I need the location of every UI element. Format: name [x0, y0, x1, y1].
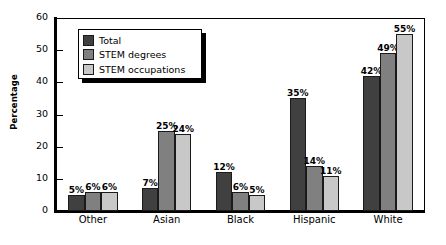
y-axis-tick-label: 30 — [0, 108, 48, 119]
bar-value-label: 6% — [102, 182, 117, 192]
y-axis-tick: 0 — [0, 211, 64, 212]
x-axis-category-label: Asian — [130, 214, 204, 225]
chart-legend: TotalSTEM degreesSTEM occupations — [78, 29, 202, 79]
bar-group: 42%49%55%White — [351, 18, 425, 211]
y-axis-tick-label: 40 — [0, 75, 48, 86]
bar: 35% — [290, 98, 307, 211]
bar: 5% — [249, 195, 266, 211]
bar-value-label: 35% — [287, 88, 309, 98]
legend-label: STEM occupations — [99, 64, 185, 75]
bar: 6% — [232, 192, 249, 211]
bar-value-label: 14% — [304, 156, 326, 166]
x-axis-category-label: Other — [56, 214, 130, 225]
legend-item: STEM degrees — [83, 48, 197, 63]
y-axis-tick: 20 — [0, 147, 64, 148]
bar: 5% — [68, 195, 85, 211]
y-axis-tick: 40 — [0, 82, 64, 83]
bar-group: 35%14%11%Hispanic — [277, 18, 351, 211]
bar-value-label: 6% — [233, 182, 248, 192]
bar: 42% — [363, 76, 380, 211]
y-axis-tick-label: 20 — [0, 140, 48, 151]
y-axis-tick: 10 — [0, 179, 64, 180]
legend-swatch-icon — [83, 49, 94, 60]
y-axis-tick-label: 50 — [0, 43, 48, 54]
legend-label: Total — [99, 35, 121, 46]
bar: 7% — [142, 188, 159, 211]
legend-item: Total — [83, 33, 197, 48]
bar-value-label: 6% — [85, 182, 100, 192]
bar-value-label: 24% — [172, 124, 194, 134]
legend-label: STEM degrees — [99, 49, 166, 60]
x-axis-category-label: White — [351, 214, 425, 225]
bar-value-label: 55% — [394, 24, 416, 34]
legend-item: STEM occupations — [83, 62, 197, 77]
x-axis-category-label: Hispanic — [277, 214, 351, 225]
x-axis-category-label: Black — [204, 214, 278, 225]
bar: 24% — [175, 134, 192, 211]
bar-value-label: 5% — [249, 185, 264, 195]
y-axis-tick: 30 — [0, 115, 64, 116]
bar: 25% — [158, 131, 175, 211]
legend-swatch-icon — [83, 35, 94, 46]
y-axis-tick-label: 0 — [0, 204, 48, 215]
bar: 6% — [101, 192, 118, 211]
bar-value-label: 7% — [143, 178, 158, 188]
y-axis-tick: 50 — [0, 50, 64, 51]
y-axis-tick: 60 — [0, 18, 64, 19]
bar-value-label: 5% — [69, 185, 84, 195]
bar-value-label: 11% — [320, 166, 342, 176]
y-axis-title: Percentage — [9, 57, 19, 147]
bar: 49% — [380, 53, 397, 211]
y-axis-tick-label: 60 — [0, 11, 48, 22]
bar-chart: Percentage 0102030405060 5%6%6%Other7%25… — [0, 0, 446, 245]
y-axis-tick-label: 10 — [0, 172, 48, 183]
bar: 12% — [216, 172, 233, 211]
bar-value-label: 12% — [213, 162, 235, 172]
bar: 55% — [396, 34, 413, 211]
legend-swatch-icon — [83, 64, 94, 75]
bar: 6% — [85, 192, 102, 211]
bar-group: 12%6%5%Black — [204, 18, 278, 211]
bar: 11% — [323, 176, 340, 211]
